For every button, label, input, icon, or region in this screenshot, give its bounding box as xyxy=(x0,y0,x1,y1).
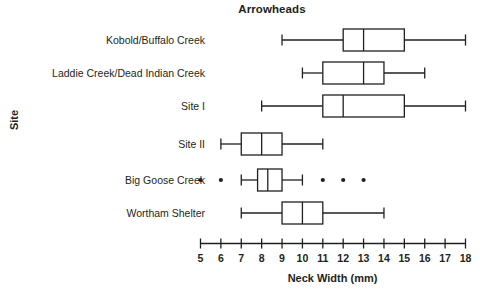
box-plot-series xyxy=(282,29,465,51)
x-axis-title: Neck Width (mm) xyxy=(200,272,465,284)
box-plot-chart: Arrowheads Site Kobold/Buffalo CreekLadd… xyxy=(0,0,480,297)
x-axis-layer xyxy=(201,239,466,249)
box-rect xyxy=(258,169,282,191)
outlier-point xyxy=(321,178,325,182)
outlier-point xyxy=(361,178,365,182)
box-plot-series xyxy=(221,133,323,155)
box-rect xyxy=(323,95,405,117)
outlier-point xyxy=(341,178,345,182)
box-plot-series xyxy=(198,169,365,191)
outlier-point xyxy=(219,178,223,182)
box-rect xyxy=(343,29,404,51)
box-plot-series xyxy=(262,95,466,117)
x-tick-label: 18 xyxy=(454,252,478,264)
outlier-point xyxy=(198,178,202,182)
boxes-layer xyxy=(198,29,465,224)
box-plot-series xyxy=(241,202,384,224)
box-plot-series xyxy=(302,62,424,84)
box-rect xyxy=(323,62,384,84)
